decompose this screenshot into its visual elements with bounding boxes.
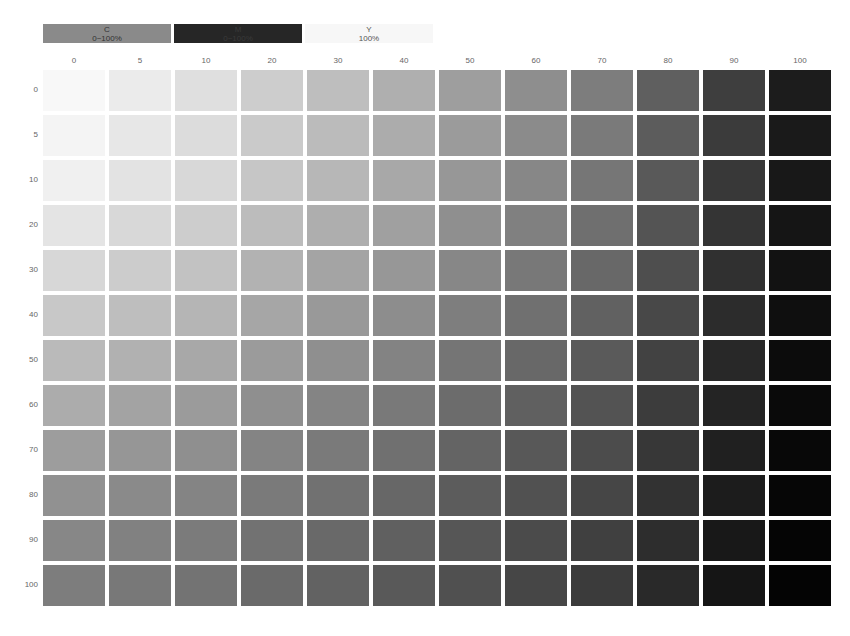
swatch-cell (571, 115, 633, 156)
swatch-cell (439, 250, 501, 291)
row-header: 50 (0, 355, 38, 364)
column-header: 20 (241, 56, 303, 65)
swatch-cell (505, 430, 567, 471)
swatch-cell (439, 340, 501, 381)
swatch-cell (241, 115, 303, 156)
swatch-cell (175, 250, 237, 291)
swatch-cell (637, 115, 699, 156)
swatch-cell (769, 475, 831, 516)
swatch-cell (505, 250, 567, 291)
swatch-cell (373, 205, 435, 246)
swatch-cell (307, 430, 369, 471)
legend-range-label: 0~100% (223, 34, 253, 43)
swatch-cell (703, 160, 765, 201)
swatch-cell (571, 385, 633, 426)
row-header: 100 (0, 580, 38, 589)
column-header: 70 (571, 56, 633, 65)
swatch-cell (637, 475, 699, 516)
swatch-cell (109, 520, 171, 561)
swatch-cell (439, 70, 501, 111)
swatch-cell (571, 250, 633, 291)
swatch-cell (307, 70, 369, 111)
legend-item-m: M 0~100% (174, 24, 302, 43)
swatch-cell (241, 250, 303, 291)
swatch-cell (571, 520, 633, 561)
swatch-cell (109, 205, 171, 246)
swatch-cell (769, 70, 831, 111)
swatch-cell (175, 70, 237, 111)
swatch-cell (175, 115, 237, 156)
swatch-cell (109, 160, 171, 201)
swatch-cell (571, 205, 633, 246)
swatch-cell (241, 430, 303, 471)
swatch-cell (175, 385, 237, 426)
swatch-cell (637, 565, 699, 606)
swatch-cell (373, 565, 435, 606)
swatch-cell (505, 295, 567, 336)
swatch-cell (571, 160, 633, 201)
swatch-cell (43, 340, 105, 381)
swatch-cell (307, 295, 369, 336)
swatch-cell (439, 385, 501, 426)
swatch-cell (373, 160, 435, 201)
swatch-cell (505, 520, 567, 561)
legend-range-label: 100% (359, 34, 379, 43)
swatch-cell (769, 250, 831, 291)
swatch-cell (175, 565, 237, 606)
swatch-cell (505, 475, 567, 516)
swatch-cell (637, 205, 699, 246)
swatch-cell (43, 205, 105, 246)
swatch-cell (703, 70, 765, 111)
swatch-cell (571, 430, 633, 471)
swatch-cell (241, 565, 303, 606)
swatch-cell (637, 340, 699, 381)
swatch-cell (571, 295, 633, 336)
swatch-cell (109, 70, 171, 111)
swatch-cell (703, 295, 765, 336)
swatch-cell (307, 340, 369, 381)
swatch-cell (109, 430, 171, 471)
swatch-cell (307, 520, 369, 561)
column-header: 80 (637, 56, 699, 65)
row-header: 80 (0, 490, 38, 499)
swatch-cell (505, 70, 567, 111)
swatch-cell (769, 205, 831, 246)
swatch-cell (373, 430, 435, 471)
row-header: 20 (0, 220, 38, 229)
swatch-cell (373, 70, 435, 111)
row-header: 70 (0, 445, 38, 454)
column-header: 90 (703, 56, 765, 65)
column-header: 5 (109, 56, 171, 65)
swatch-cell (373, 475, 435, 516)
row-header: 0 (0, 85, 38, 94)
swatch-cell (43, 520, 105, 561)
swatch-cell (637, 385, 699, 426)
swatch-cell (439, 520, 501, 561)
swatch-cell (373, 520, 435, 561)
row-header: 90 (0, 535, 38, 544)
swatch-cell (241, 205, 303, 246)
swatch-cell (571, 475, 633, 516)
row-header: 30 (0, 265, 38, 274)
swatch-cell (769, 565, 831, 606)
swatch-cell (109, 250, 171, 291)
legend-item-y: Y 100% (305, 24, 433, 43)
swatch-cell (307, 475, 369, 516)
swatch-cell (175, 520, 237, 561)
row-header: 60 (0, 400, 38, 409)
swatch-cell (307, 205, 369, 246)
legend-item-c: C 0~100% (43, 24, 171, 43)
legend-channel-label: Y (366, 25, 371, 34)
swatch-cell (439, 160, 501, 201)
swatch-cell (769, 385, 831, 426)
swatch-cell (703, 205, 765, 246)
swatch-cell (769, 295, 831, 336)
swatch-cell (373, 340, 435, 381)
swatch-cell (43, 475, 105, 516)
swatch-cell (769, 340, 831, 381)
swatch-cell (637, 430, 699, 471)
swatch-cell (637, 160, 699, 201)
swatch-cell (439, 565, 501, 606)
swatch-cell (109, 475, 171, 516)
swatch-cell (109, 115, 171, 156)
